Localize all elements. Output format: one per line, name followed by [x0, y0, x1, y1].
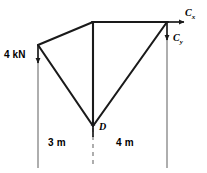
member-A-B	[38, 22, 93, 45]
reaction-cx-subscript: x	[192, 13, 196, 21]
applied-load-label: 4 kN	[4, 50, 26, 60]
force-arrows	[38, 22, 184, 137]
reaction-cx-label: Cx	[185, 8, 195, 21]
diagram-canvas	[0, 0, 207, 173]
reaction-cy-subscript: y	[180, 38, 183, 46]
node-d-label: D	[99, 122, 106, 132]
reaction-cy-label: Cy	[173, 33, 183, 46]
dimension-left-label: 3 m	[48, 138, 66, 148]
reaction-cy-base: C	[173, 32, 180, 43]
member-C-D	[93, 22, 167, 126]
reaction-cx-base: C	[185, 7, 192, 18]
member-A-D	[38, 45, 93, 126]
dimension-right-label: 4 m	[116, 138, 134, 148]
truss-members	[38, 22, 168, 126]
free-body-diagram: 4 kN Cx Cy D 3 m 4 m	[0, 0, 207, 173]
